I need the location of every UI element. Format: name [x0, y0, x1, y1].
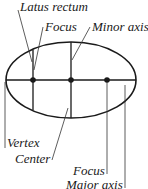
left-focus-point: [30, 77, 36, 83]
latus-rectum-leader: [18, 10, 32, 62]
label-center: Center: [15, 151, 51, 166]
label-vertex: Vertex: [7, 135, 40, 150]
label-focus-bottom: Focus: [72, 163, 105, 178]
center-point: [68, 77, 74, 83]
label-major-axis: Major axis: [65, 177, 123, 189]
label-latus-rectum: Latus rectum: [19, 0, 88, 14]
label-minor-axis: Minor axis: [91, 19, 148, 34]
ellipse-diagram: Latus rectum Focus Minor axis Vertex Cen…: [0, 0, 148, 189]
center-leader: [52, 108, 68, 160]
label-focus-top: Focus: [44, 19, 77, 34]
right-focus-point: [104, 77, 110, 83]
